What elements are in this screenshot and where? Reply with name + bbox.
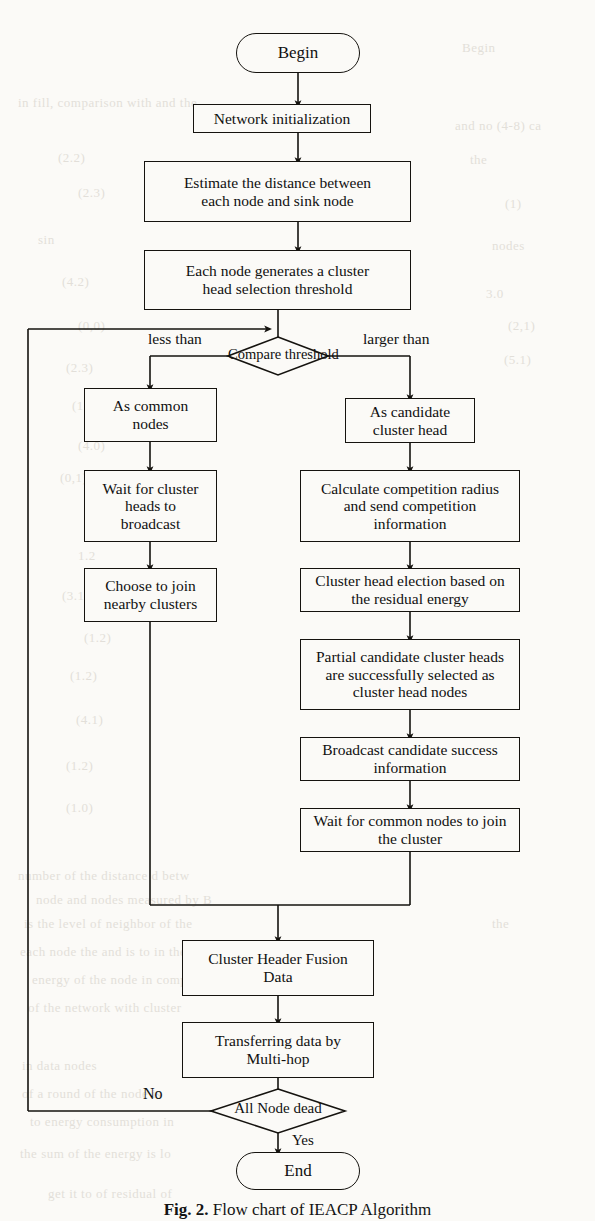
node-as-common-nodes-label: As commonnodes (113, 397, 188, 432)
node-partial-candidate-selected[interactable]: Partial candidate cluster headsare succe… (300, 639, 520, 710)
node-wait-for-broadcast-label: Wait for clusterheads tobroadcast (102, 480, 198, 533)
node-wait-common-nodes-join-label: Wait for common nodes to jointhe cluster (314, 812, 507, 847)
edge-label-no: No (143, 1085, 163, 1103)
node-choose-join-clusters-label: Choose to joinnearby clusters (104, 577, 197, 612)
node-network-initialization-label: Network initialization (214, 110, 350, 128)
decision-all-node-dead[interactable]: All Node dead (211, 1100, 345, 1117)
node-estimate-distance-label: Estimate the distance betweeneach node a… (184, 174, 371, 209)
node-choose-join-clusters[interactable]: Choose to joinnearby clusters (84, 568, 217, 622)
decision-all-node-dead-label: All Node dead (234, 1100, 321, 1116)
node-as-candidate-cluster-head-label: As candidatecluster head (370, 403, 450, 438)
decision-compare-threshold-label: Compare threshold (228, 346, 339, 362)
node-cluster-head-election[interactable]: Cluster head election based onthe residu… (300, 568, 520, 612)
node-end[interactable]: End (236, 1152, 360, 1190)
figure-caption: Fig. 2. Flow chart of IEACP Algorithm (0, 1200, 595, 1220)
edge-label-no-text: No (143, 1085, 163, 1102)
node-cluster-header-fusion-data[interactable]: Cluster Header FusionData (182, 940, 374, 996)
edge-label-yes-text: Yes (292, 1132, 314, 1148)
node-broadcast-candidate-success[interactable]: Broadcast candidate successinformation (300, 737, 520, 781)
node-cluster-head-election-label: Cluster head election based onthe residu… (315, 572, 504, 607)
node-network-initialization[interactable]: Network initialization (193, 104, 371, 133)
figure-caption-text: Flow chart of IEACP Algorithm (213, 1200, 431, 1219)
node-generate-threshold-label: Each node generates a clusterhead select… (186, 262, 369, 297)
figure-caption-label: Fig. 2. (164, 1200, 209, 1219)
edge-label-larger-than-text: larger than (363, 330, 429, 347)
node-generate-threshold[interactable]: Each node generates a clusterhead select… (144, 250, 411, 310)
node-transferring-data-multi-hop[interactable]: Transferring data byMulti-hop (182, 1022, 374, 1078)
node-calculate-competition-radius-label: Calculate competition radiusand send com… (321, 480, 499, 533)
node-end-label: End (284, 1161, 311, 1180)
edge-label-larger-than: larger than (363, 330, 429, 348)
node-calculate-competition-radius[interactable]: Calculate competition radiusand send com… (300, 470, 520, 542)
edge-label-yes: Yes (292, 1132, 314, 1149)
node-estimate-distance[interactable]: Estimate the distance betweeneach node a… (144, 161, 411, 222)
node-cluster-header-fusion-data-label: Cluster Header FusionData (208, 950, 347, 985)
edge-label-less-than: less than (148, 330, 202, 348)
decision-compare-threshold[interactable]: Compare threshold (228, 346, 328, 363)
node-broadcast-candidate-success-label: Broadcast candidate successinformation (322, 741, 498, 776)
node-wait-common-nodes-join[interactable]: Wait for common nodes to jointhe cluster (300, 808, 520, 852)
node-wait-for-broadcast[interactable]: Wait for clusterheads tobroadcast (84, 470, 217, 542)
node-as-common-nodes[interactable]: As commonnodes (84, 388, 217, 442)
node-transferring-data-multi-hop-label: Transferring data byMulti-hop (215, 1032, 341, 1067)
figure-page: Beginin fill, comparison with and theand… (0, 0, 595, 1221)
node-begin-label: Begin (278, 43, 319, 62)
node-partial-candidate-selected-label: Partial candidate cluster headsare succe… (316, 648, 504, 701)
node-as-candidate-cluster-head[interactable]: As candidatecluster head (345, 398, 475, 443)
edge-label-less-than-text: less than (148, 330, 202, 347)
node-begin[interactable]: Begin (236, 33, 360, 73)
flowchart-figure: Begin Network initialization Estimate th… (0, 0, 595, 1221)
